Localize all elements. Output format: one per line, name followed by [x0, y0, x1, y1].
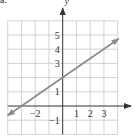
y-axis-label: y	[64, 0, 69, 6]
y-tick-label: 3	[55, 58, 60, 69]
coordinate-plane: y −2123−11345	[0, 0, 135, 139]
y-tick-label: 5	[55, 30, 60, 41]
x-tick-label: 3	[101, 108, 106, 119]
x-tick-label: −2	[30, 108, 41, 119]
axes: y	[8, 0, 131, 134]
y-tick-label: −1	[49, 115, 60, 126]
x-tick-label: 1	[74, 108, 79, 119]
y-tick-label: 4	[55, 44, 60, 55]
x-tick-label: 2	[88, 108, 93, 119]
y-tick-label: 1	[55, 86, 60, 97]
